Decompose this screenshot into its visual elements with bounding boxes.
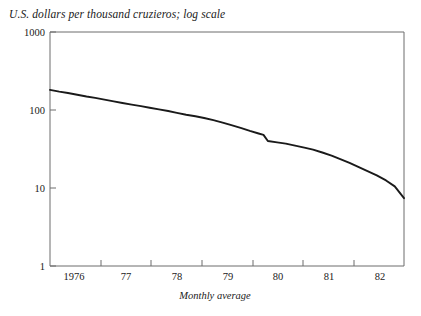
- x-axis-ticks: [101, 260, 354, 266]
- x-tick-label-82: 82: [375, 271, 386, 282]
- chart-page: U.S. dollars per thousand cruzieros; log…: [0, 0, 421, 316]
- y-axis-ticks: [50, 32, 56, 266]
- y-tick-label-100: 100: [29, 105, 45, 116]
- plot-frame: [50, 32, 404, 266]
- x-tick-label-77: 77: [121, 271, 132, 282]
- data-series-line: [50, 90, 404, 198]
- x-tick-label-80: 80: [273, 271, 284, 282]
- x-axis-label: Monthly average: [178, 290, 251, 301]
- x-tick-label-81: 81: [324, 271, 335, 282]
- y-tick-label-1000: 1000: [24, 27, 45, 38]
- y-axis-tick-labels: 1000 100 10 1: [24, 27, 45, 272]
- x-tick-label-78: 78: [172, 271, 183, 282]
- x-tick-label-1976: 1976: [64, 271, 85, 282]
- x-axis-tick-labels: 1976 77 78 79 80 81 82: [64, 271, 386, 282]
- y-tick-label-1: 1: [40, 261, 45, 272]
- y-tick-label-10: 10: [35, 183, 46, 194]
- line-chart-plot: 1000 100 10 1 1976 77 78 79 80 81 82 Mon…: [0, 0, 421, 316]
- x-tick-label-79: 79: [223, 271, 234, 282]
